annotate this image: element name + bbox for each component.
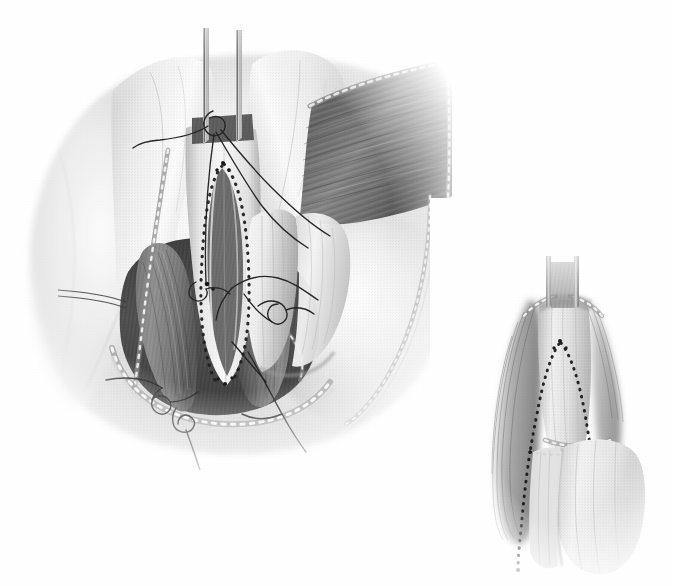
illustration-canvas [0,0,673,587]
paper-texture-overlay [0,0,673,587]
surgical-illustration-figure: Surgical repair illustration — open oper… [0,0,673,587]
